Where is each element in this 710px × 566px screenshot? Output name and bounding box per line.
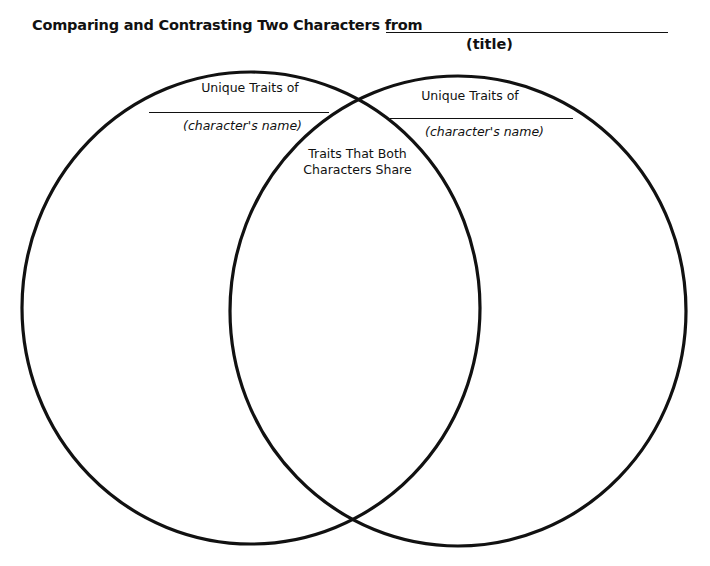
- left-name-caption: (character's name): [170, 118, 315, 133]
- left-heading: Unique Traits of: [180, 80, 320, 95]
- left-name-line[interactable]: [149, 112, 329, 113]
- overlap-heading-line1: Traits That Both: [295, 146, 420, 161]
- venn-diagram: [0, 0, 710, 566]
- left-circle: [22, 72, 480, 544]
- right-heading: Unique Traits of: [400, 88, 540, 103]
- right-name-caption: (character's name): [412, 124, 557, 139]
- overlap-heading-line2: Characters Share: [295, 162, 420, 177]
- right-name-line[interactable]: [390, 118, 573, 119]
